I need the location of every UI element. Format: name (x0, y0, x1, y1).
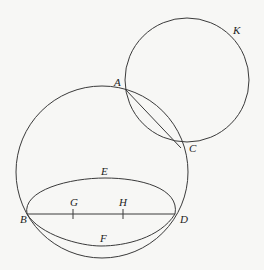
geometry-diagram: K A C E B G H D F (0, 0, 264, 270)
label-g: G (70, 196, 78, 208)
label-d: D (179, 213, 188, 225)
label-a: A (113, 76, 121, 88)
circle-k (125, 18, 249, 142)
arc-e (27, 178, 176, 214)
chord-ac (125, 89, 181, 148)
label-f: F (99, 232, 107, 244)
label-k: K (232, 24, 241, 36)
label-h: H (118, 196, 128, 208)
label-b: B (20, 213, 27, 225)
label-c: C (189, 142, 197, 154)
label-e: E (100, 165, 108, 177)
diagram-canvas: K A C E B G H D F (0, 0, 264, 270)
